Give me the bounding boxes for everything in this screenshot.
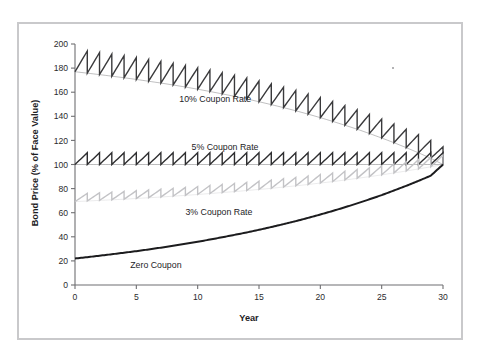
x-tick-label: 25	[377, 292, 387, 302]
x-tick-label: 10	[193, 292, 203, 302]
series-line-0pct	[75, 165, 443, 259]
series-label-3pct: 3% Coupon Rate	[185, 207, 252, 217]
bond-price-chart: 020406080100120140160180200 051015202530…	[0, 0, 478, 356]
axes-group: 020406080100120140160180200 051015202530	[54, 39, 448, 301]
figure-root: 020406080100120140160180200 051015202530…	[0, 0, 478, 356]
y-tick-label: 180	[54, 63, 69, 73]
series-line-10pct	[75, 51, 443, 165]
x-tick-label: 5	[134, 292, 139, 302]
y-tick-label: 40	[58, 232, 68, 242]
y-tick-label: 80	[58, 184, 68, 194]
x-tick-label: 0	[73, 292, 78, 302]
series-label-10pct: 10% Coupon Rate	[179, 94, 251, 104]
series-label-zero-coupon: Zero Coupon	[130, 260, 181, 270]
y-axis-title: Bond Price (% of Face Value)	[30, 100, 40, 227]
y-axis-ticks: 020406080100120140160180200	[54, 39, 75, 290]
x-tick-label: 30	[438, 292, 448, 302]
y-tick-label: 200	[54, 39, 69, 49]
x-axis-title: Year	[239, 313, 259, 323]
y-tick-label: 120	[54, 136, 69, 146]
y-tick-label: 20	[58, 256, 68, 266]
series-line-5pct	[75, 153, 443, 165]
x-tick-label: 15	[254, 292, 264, 302]
stray-speck	[392, 67, 394, 69]
series-label-5pct: 5% Coupon Rate	[192, 142, 259, 152]
y-tick-label: 100	[54, 160, 69, 170]
y-tick-label: 0	[63, 280, 68, 290]
series-group	[75, 51, 443, 258]
y-tick-label: 160	[54, 87, 69, 97]
y-tick-label: 140	[54, 111, 69, 121]
x-axis-ticks: 051015202530	[73, 285, 448, 302]
y-tick-label: 60	[58, 208, 68, 218]
x-tick-label: 20	[316, 292, 326, 302]
annotation-group: 10% Coupon Rate 5% Coupon Rate 3% Coupon…	[130, 94, 258, 270]
